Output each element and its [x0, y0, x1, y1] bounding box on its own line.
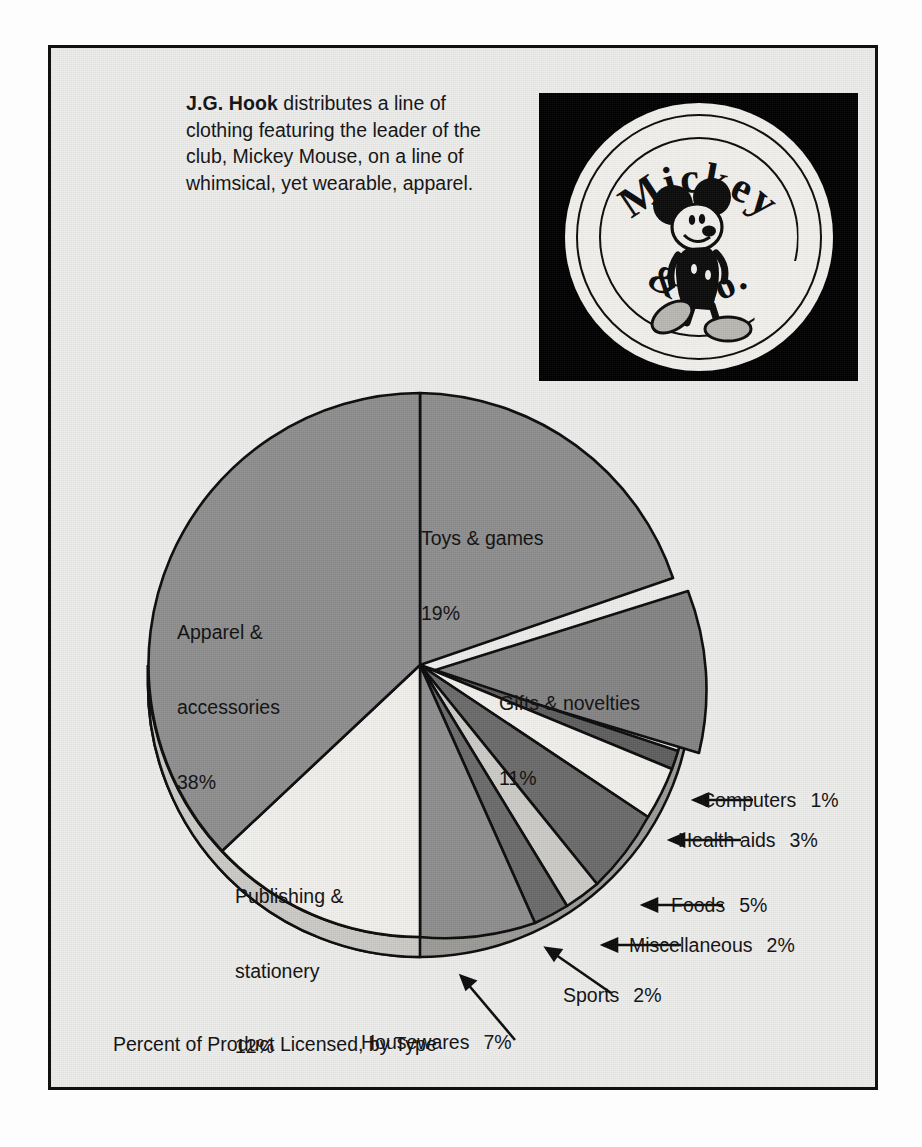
- label-sports: Sports2%: [563, 983, 662, 1007]
- mickey-and-co-logo: Mickey & Co.: [539, 93, 858, 381]
- label-misc-pct: 2%: [753, 934, 795, 956]
- label-toys-text: Toys & games: [421, 526, 543, 551]
- label-health-text: Health aids: [678, 829, 776, 851]
- label-housewares-pct: 7%: [469, 1031, 511, 1053]
- label-apparel-and-accessories: Apparel & accessories 38%: [177, 570, 280, 845]
- label-sports-text: Sports: [563, 984, 619, 1006]
- label-computers: Computers1%: [701, 788, 839, 812]
- label-toys-pct: 19%: [421, 601, 543, 626]
- label-apparel-pct: 38%: [177, 770, 280, 795]
- label-health-aids: Health aids3%: [678, 828, 818, 852]
- label-gifts-and-novelties: Gifts & novelties 11%: [499, 641, 640, 841]
- label-miscellaneous: Miscellaneous2%: [629, 933, 795, 957]
- label-apparel-text-1: Apparel &: [177, 620, 280, 645]
- label-publishing-text-2: stationery: [235, 959, 343, 984]
- figure-frame: J.G. Hook distributes a line of clothing…: [48, 45, 878, 1090]
- label-foods-pct: 5%: [725, 894, 767, 916]
- company-name: J.G. Hook: [186, 92, 278, 114]
- label-gifts-text: Gifts & novelties: [499, 691, 640, 716]
- label-foods-text: Foods: [671, 894, 725, 916]
- intro-paragraph: J.G. Hook distributes a line of clothing…: [186, 90, 496, 196]
- figure-caption: Percent of Product Licensed, by Type: [113, 1033, 437, 1056]
- label-apparel-text-2: accessories: [177, 695, 280, 720]
- label-misc-text: Miscellaneous: [629, 934, 753, 956]
- label-health-pct: 3%: [776, 829, 818, 851]
- label-computers-text: Computers: [701, 789, 796, 811]
- label-gifts-pct: 11%: [499, 766, 640, 791]
- label-sports-pct: 2%: [619, 984, 661, 1006]
- label-computers-pct: 1%: [796, 789, 838, 811]
- logo-artwork: Mickey & Co.: [539, 93, 858, 381]
- label-foods: Foods5%: [671, 893, 767, 917]
- label-publishing-text-1: Publishing &: [235, 884, 343, 909]
